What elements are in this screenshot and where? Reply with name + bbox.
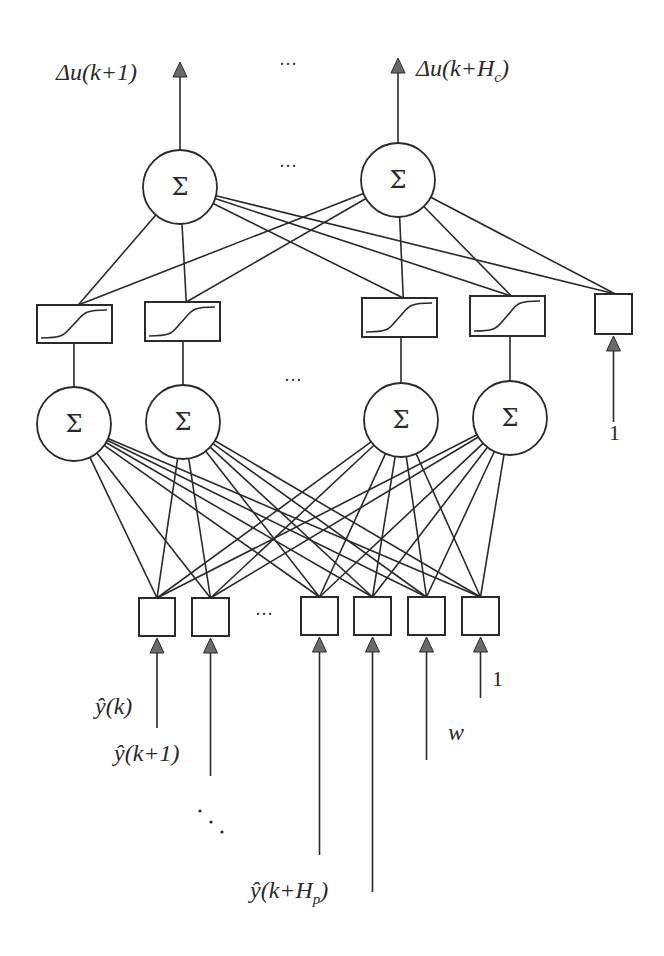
sigma-icon: Σ [393,406,410,434]
edge-output-activation [424,206,511,296]
arrowhead-up-icon [150,638,164,653]
input-box [354,597,391,635]
sigma-icon: Σ [172,173,189,201]
sigma-icon: Σ [502,404,519,432]
edge-hidden-input [213,444,426,597]
edge-output-activation [186,198,366,302]
bias-input-label: 1 [492,666,503,691]
hidden-bias-arrow [607,336,621,422]
sigmoid-activation-box [145,302,220,341]
edge-hidden-input [320,443,484,597]
output-ellipsis: ··· [279,54,297,74]
edge-output-activation [78,193,363,305]
hidden-sum-node: Σ [146,385,220,459]
arrowhead-up-icon [173,62,187,77]
sigma-icon: Σ [66,410,83,438]
hidden-sum-node: Σ [37,387,111,461]
edge-hidden-input [90,457,157,598]
output-arrow-du-kHc [391,58,405,143]
arrowhead-up-icon [474,637,488,652]
input-box [192,598,229,636]
output-label-du-k1: Δu(k+1) [55,59,137,85]
edge-hidden-input [481,455,504,597]
input-box [301,597,338,635]
arrowhead-up-icon [366,637,380,652]
input-box [139,598,175,636]
neural-network-diagram: ΣΣΣΣΣΣ Δu(k+1) Δu(k+Hc) ··· ··· ··· ··· … [0,0,664,956]
output-node-ellipsis: ··· [279,156,297,176]
input-arrow [313,637,327,855]
arrowhead-up-icon [607,336,621,351]
hidden-sum-node: Σ [473,381,547,455]
edge-output-activation [215,199,511,296]
input-box [408,597,445,635]
input-arrow [204,638,218,776]
input-ellipsis: ··· [255,604,273,624]
output-arrow-du-k1 [173,62,187,150]
sigma-icon: Σ [390,166,407,194]
input-label-y-kHp: ŷ(k+Hp) [248,877,328,907]
input-arrow [420,637,434,760]
hidden-ellipsis: ··· [284,370,302,390]
arrowhead-up-icon [420,637,434,652]
input-arrow [150,638,164,728]
edge-output-activation [400,217,404,298]
edge-hidden-input [157,459,178,598]
edge-output-activation [78,215,156,305]
sigmoid-activation-box [470,296,545,336]
arrowhead-up-icon [391,58,405,73]
input-label-y-k: ŷ(k) [93,693,132,719]
input-label-setpoint-w: w [448,719,464,745]
sigma-icon: Σ [175,408,192,436]
edge-output-activation [431,197,616,294]
output-sum-node: Σ [143,150,217,224]
bias-hidden-label: 1 [609,420,620,445]
input-box [462,597,499,635]
input-label-y-k1: ŷ(k+1) [112,740,179,766]
edge-hidden-input [104,445,319,597]
input-arrow [474,637,488,698]
sigmoid-activation-box [362,298,437,337]
hidden-bias-box [595,294,632,334]
output-sum-node: Σ [361,143,435,217]
input-arrow [366,637,380,892]
sigmoid-activation-box [37,305,112,343]
hidden-sum-node: Σ [364,383,438,457]
arrowhead-up-icon [204,638,218,653]
arrowhead-up-icon [313,637,327,652]
diagonal-ellipsis-icon [198,809,223,833]
output-label-du-kHc: Δu(k+Hc) [415,55,509,85]
